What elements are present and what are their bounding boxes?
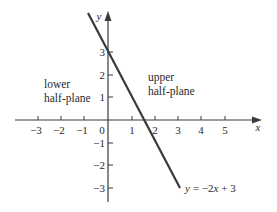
x-tick-label: 4 bbox=[198, 124, 204, 136]
upper-label-line1: upper bbox=[148, 71, 174, 84]
y-tick-label: −3 bbox=[93, 182, 105, 194]
y-tick-label: −1 bbox=[93, 137, 105, 149]
y-axis-arrow-icon bbox=[105, 11, 112, 21]
upper-label-line2: half-plane bbox=[148, 85, 195, 98]
lower-label-line1: lower bbox=[44, 78, 70, 90]
x-tick-label: 5 bbox=[222, 124, 228, 136]
x-tick-label: −1 bbox=[76, 124, 88, 136]
x-tick-labels: −3 −2 −1 0 1 2 3 4 5 bbox=[30, 124, 228, 136]
eq-mid: = −2 bbox=[193, 182, 214, 194]
y-axis-label: y bbox=[96, 10, 102, 22]
y-axis bbox=[105, 11, 112, 202]
x-tick-label: −3 bbox=[30, 124, 42, 136]
y-tick-label: 3 bbox=[100, 46, 106, 58]
x-tick-label: −2 bbox=[53, 124, 65, 136]
x-tick-label: 2 bbox=[152, 124, 158, 136]
coordinate-plane: −3 −2 −1 0 1 2 3 4 5 3 2 1 −1 −2 −3 y x … bbox=[0, 0, 277, 212]
x-axis-label: x bbox=[255, 121, 261, 133]
equation-label: y= −2x + 3 bbox=[184, 182, 236, 194]
lower-label-line2: half-plane bbox=[44, 92, 91, 105]
lower-half-plane-label: lower half-plane bbox=[44, 78, 91, 105]
eq-y: y bbox=[184, 182, 190, 194]
upper-half-plane-label: upper half-plane bbox=[148, 71, 195, 98]
x-tick-label: 0 bbox=[99, 124, 105, 136]
x-tick-label: 1 bbox=[129, 124, 135, 136]
y-tick-label: 2 bbox=[100, 69, 106, 81]
eq-tail: + 3 bbox=[218, 182, 236, 194]
y-tick-label: 1 bbox=[100, 91, 106, 103]
x-tick-label: 3 bbox=[175, 124, 181, 136]
y-tick-label: −2 bbox=[93, 159, 105, 171]
